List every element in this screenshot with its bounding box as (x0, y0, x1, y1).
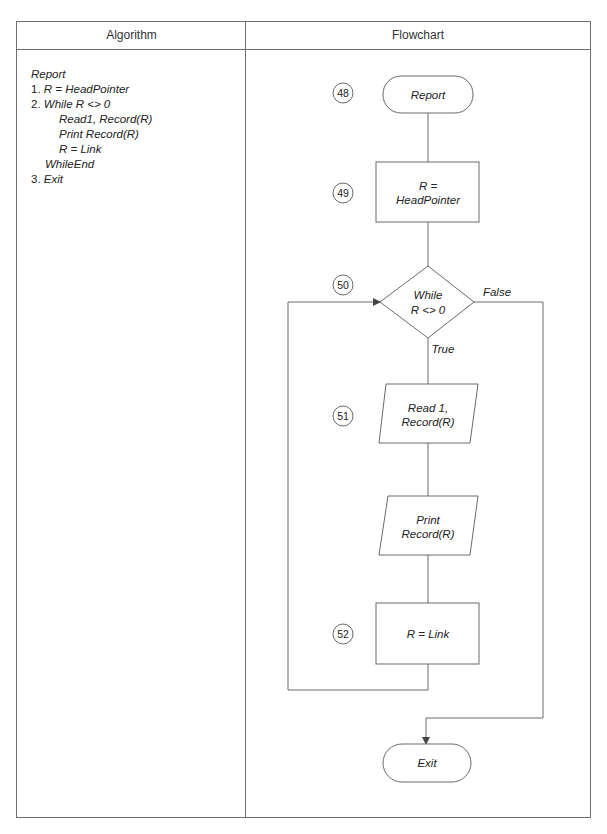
decision-loop-label-1: While (414, 289, 443, 301)
edge-label-true: True (432, 343, 455, 355)
terminal-end-label: Exit (417, 757, 437, 769)
step-number-51: 51 (337, 410, 349, 422)
decision-loop-shape (380, 266, 474, 338)
step-number-48: 48 (337, 87, 349, 99)
io-read-label-2: Record(R) (401, 416, 454, 428)
process-init-shape (376, 162, 479, 222)
step-number-50: 50 (337, 279, 349, 291)
process-advance-label: R = Link (407, 628, 451, 640)
io-print-label-2: Record(R) (401, 528, 454, 540)
step-number-49: 49 (337, 187, 349, 199)
io-print-label-1: Print (416, 514, 440, 526)
step-number-52: 52 (337, 628, 349, 640)
decision-loop-label-2: R <> 0 (411, 304, 446, 316)
process-init-label-1: R = (419, 180, 438, 192)
flowchart: 48 49 50 51 52 Report R = HeadPointer Wh… (0, 0, 607, 834)
process-init-label-2: HeadPointer (396, 194, 461, 206)
edge-label-false: False (483, 286, 511, 298)
io-read-label-1: Read 1, (408, 402, 448, 414)
terminal-start-label: Report (411, 89, 446, 101)
